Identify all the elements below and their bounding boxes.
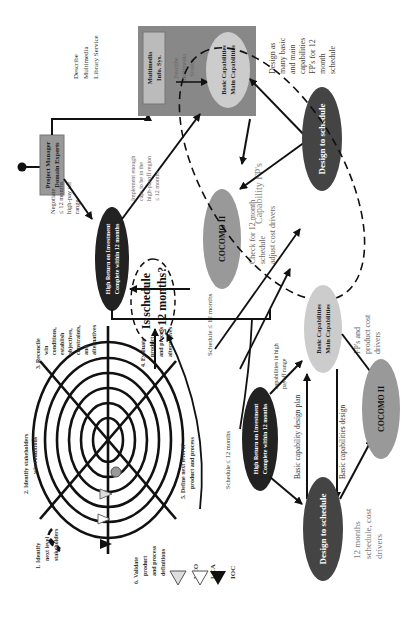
spiral-step-1: 1. Identifynext levelstakeholders <box>35 528 59 569</box>
spiral-model: 1. Identifynext levelstakeholders 2. Ide… <box>23 324 195 584</box>
fps-cost-label: FP's andproduct costdrivers <box>353 314 382 354</box>
spiral-step-6: 6. Validateproductand processdefinitions <box>133 545 166 584</box>
svg-text:COCOMO II: COCOMO II <box>377 386 386 432</box>
spiral-step-5: 5. Define next level ofproduct and proce… <box>180 437 195 499</box>
milestone-legend: LCO LCA IOC <box>170 563 237 585</box>
spiral-step-2: 2. Identify stakeholderswin conditions <box>23 433 38 494</box>
schedule-label-top: Schedule ≤ 12 months <box>206 293 214 356</box>
basic-capabilities-node-bottom <box>304 285 342 373</box>
rotated-diagram: 1. Identifynext levelstakeholders 2. Ide… <box>0 0 413 619</box>
hri-node-bottom <box>242 387 278 491</box>
design-as-many-label: Design asmany basicand maincapabilitiesF… <box>268 37 337 74</box>
svg-text:Is schedule≤ 12 months?: Is schedule≤ 12 months? <box>139 267 169 336</box>
lco-legend-icon <box>170 571 186 585</box>
start-node-icon <box>18 163 27 172</box>
svg-text:Design to schedule: Design to schedule <box>318 493 328 564</box>
hri-node-top <box>95 207 129 311</box>
ioc-marker-icon <box>100 539 112 549</box>
caps-design-label: Basic capabilities design <box>338 405 347 479</box>
diagram-canvas: 1. Identifynext levelstakeholders 2. Ide… <box>0 0 413 619</box>
twelve-months-label: 12 monthsschedule, costdrivers <box>352 508 384 559</box>
implement-label: Implement enoughcaps to be in thehigh-pa… <box>130 156 160 201</box>
svg-text:Design to schedule: Design to schedule <box>317 103 327 174</box>
basic-capabilities-node <box>206 32 250 108</box>
svg-text:COCOMO II: COCOMO II <box>218 216 227 262</box>
svg-text:IOC: IOC <box>229 566 237 579</box>
design-plan-label: Basic capability design plan <box>293 394 302 479</box>
bottom-flow: High Return on InvestmentComplete within… <box>224 285 400 581</box>
schedule-label-bottom: Schedule ≤ 12 months <box>224 431 231 489</box>
describe-service-label: DescribeMultimediaLibrary Service <box>72 35 100 79</box>
caps-high-label: capabilities in highpayoff range <box>273 343 287 389</box>
spiral-marker-circle <box>111 467 121 477</box>
lco-marker-icon <box>100 489 112 499</box>
